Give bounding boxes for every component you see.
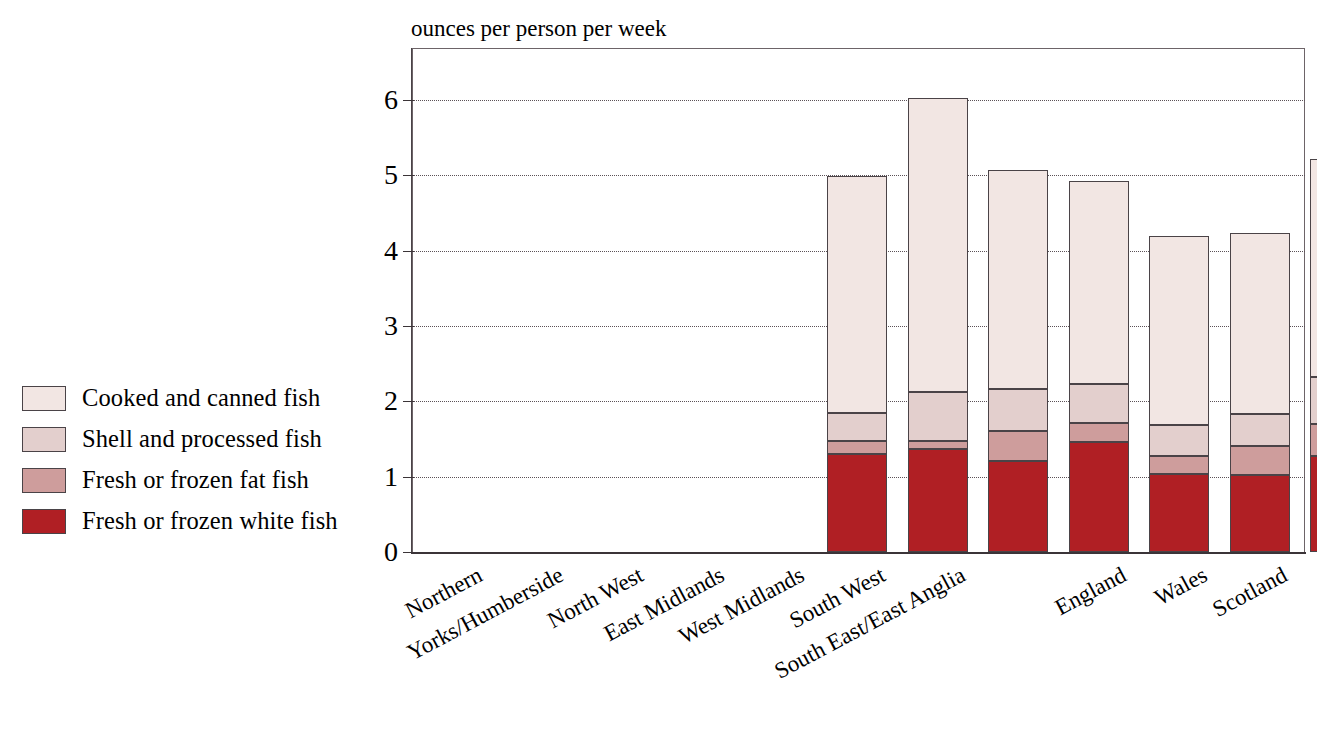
legend-item-2[interactable]: Fresh or frozen fat fish bbox=[22, 460, 372, 501]
legend-swatch-3 bbox=[22, 509, 66, 534]
legend-swatch-2 bbox=[22, 468, 66, 493]
legend-item-1[interactable]: Shell and processed fish bbox=[22, 419, 372, 460]
legend-label-2: Fresh or frozen fat fish bbox=[82, 468, 309, 493]
legend-item-3[interactable]: Fresh or frozen white fish bbox=[22, 501, 372, 542]
x-axis-labels: NorthernYorks/HumbersideNorth WestEast M… bbox=[0, 0, 1317, 731]
legend-label-3: Fresh or frozen white fish bbox=[82, 509, 338, 534]
chart-legend: Cooked and canned fishShell and processe… bbox=[22, 378, 372, 542]
chart-figure: ounces per person per week 0123456 North… bbox=[0, 0, 1317, 731]
legend-item-0[interactable]: Cooked and canned fish bbox=[22, 378, 372, 419]
legend-label-0: Cooked and canned fish bbox=[82, 386, 320, 411]
x-tick-label-england: England bbox=[1051, 563, 1129, 619]
x-tick-label-scotland: Scotland bbox=[1209, 563, 1291, 621]
legend-swatch-1 bbox=[22, 427, 66, 452]
legend-swatch-0 bbox=[22, 386, 66, 411]
x-tick-label-wales: Wales bbox=[1150, 563, 1210, 609]
legend-label-1: Shell and processed fish bbox=[82, 427, 322, 452]
